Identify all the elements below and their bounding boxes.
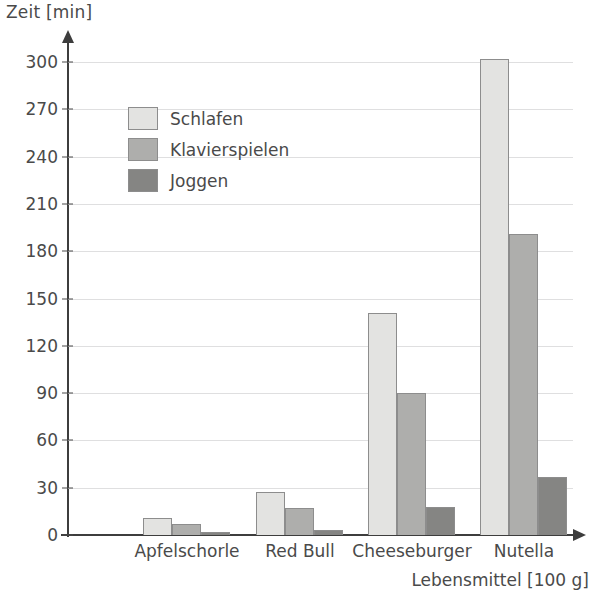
legend-item[interactable]: Klavierspielen — [128, 138, 289, 161]
x-axis-tick-labels: ApfelschorleRed BullCheeseburgerNutella — [0, 541, 597, 567]
bar[interactable] — [509, 234, 538, 535]
y-axis-tick-label: 180 — [26, 241, 58, 261]
y-axis-tick-mark — [62, 156, 73, 157]
x-axis-tick-label: Nutella — [494, 541, 554, 561]
legend-label: Schlafen — [170, 109, 243, 129]
bar[interactable] — [538, 477, 567, 535]
legend-label: Joggen — [170, 171, 228, 191]
y-axis-tick-mark — [62, 203, 73, 204]
bar-chart: Zeit [min] 0306090120150180210240270300 … — [0, 0, 597, 613]
y-axis-tick-mark — [62, 298, 73, 299]
bar[interactable] — [368, 313, 397, 535]
y-axis-tick-mark — [62, 251, 73, 252]
legend-swatch — [128, 138, 158, 161]
bar[interactable] — [426, 507, 455, 535]
legend-item[interactable]: Joggen — [128, 169, 289, 192]
x-axis-tick-label: Red Bull — [265, 541, 335, 561]
y-axis-tick-label: 120 — [26, 336, 58, 356]
y-axis-tick-mark — [62, 62, 73, 63]
legend-swatch — [128, 107, 158, 130]
legend-label: Klavierspielen — [170, 140, 289, 160]
x-axis-tick-label: Cheeseburger — [352, 541, 471, 561]
legend-item[interactable]: Schlafen — [128, 107, 289, 130]
bar[interactable] — [172, 524, 201, 535]
y-axis-tick-label: 60 — [36, 430, 58, 450]
y-axis-tick-mark — [62, 393, 73, 394]
bar[interactable] — [143, 518, 172, 535]
y-axis-tick-mark — [62, 109, 73, 110]
legend-swatch — [128, 169, 158, 192]
y-axis-tick-label: 240 — [26, 147, 58, 167]
bar-group — [368, 62, 455, 535]
x-axis-tick-label: Apfelschorle — [134, 541, 239, 561]
bar[interactable] — [480, 59, 509, 535]
bar[interactable] — [256, 492, 285, 535]
y-axis-tick-label: 150 — [26, 289, 58, 309]
y-axis-tick-label: 300 — [26, 52, 58, 72]
legend: SchlafenKlavierspielenJoggen — [128, 107, 289, 192]
y-axis-tick-label: 270 — [26, 99, 58, 119]
x-axis-arrow-icon — [573, 529, 586, 541]
y-axis-tick-mark — [62, 345, 73, 346]
bar[interactable] — [285, 508, 314, 535]
y-axis-tick-mark — [62, 440, 73, 441]
x-axis-title: Lebensmittel [100 g] — [411, 570, 589, 590]
bar[interactable] — [314, 530, 343, 535]
y-axis-tick-mark — [62, 487, 73, 488]
bar-group — [480, 62, 567, 535]
y-axis-tick-label: 90 — [36, 383, 58, 403]
y-axis-tick-labels: 0306090120150180210240270300 — [0, 0, 58, 613]
y-axis-tick-label: 210 — [26, 194, 58, 214]
bar[interactable] — [201, 532, 230, 535]
y-axis-tick-mark — [62, 535, 73, 536]
bar[interactable] — [397, 393, 426, 535]
y-axis-tick-label: 30 — [36, 478, 58, 498]
